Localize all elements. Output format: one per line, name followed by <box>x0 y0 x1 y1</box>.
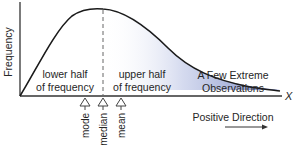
upper-half-label-line2: of frequency <box>113 81 172 93</box>
median-marker-arrow <box>98 98 108 110</box>
upper-half-label-line1: upper half <box>119 68 166 80</box>
mean-label: mean <box>116 113 127 138</box>
mean-marker-arrow <box>116 98 126 110</box>
median-label: median <box>98 113 109 146</box>
mode-label: mode <box>80 113 91 138</box>
tail-label-line2: Observations <box>202 82 264 94</box>
lower-half-label-line2: of frequency <box>36 81 95 93</box>
lower-half-label-line1: lower half <box>43 68 88 80</box>
direction-label: Positive Direction <box>192 111 273 123</box>
x-axis-label: X <box>284 90 293 102</box>
mode-marker-arrow <box>80 98 90 110</box>
tail-label-line1: A Few Extreme <box>197 69 268 81</box>
skewed-distribution-diagram: Frequency lower half of frequency upper … <box>0 0 293 164</box>
direction-arrow <box>225 125 268 130</box>
y-axis-label: Frequency <box>2 26 14 76</box>
